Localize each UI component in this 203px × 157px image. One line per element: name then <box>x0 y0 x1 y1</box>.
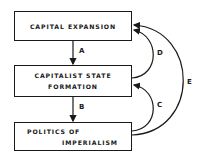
edge-label-d: D <box>157 49 163 57</box>
arrow-d <box>132 30 153 78</box>
node-label: IMPERIALISM <box>27 137 118 148</box>
node-capitalist-state-formation: CAPITALIST STATE FORMATION <box>14 65 132 97</box>
node-capital-expansion: CAPITAL EXPANSION <box>14 11 132 41</box>
node-label: CAPITALIST STATE <box>34 70 111 81</box>
edge-label-c: C <box>157 101 162 109</box>
edge-label-b: B <box>79 103 84 111</box>
arrow-e <box>132 25 183 135</box>
arrow-c <box>132 85 153 131</box>
node-label: POLITICS OF <box>27 126 80 137</box>
edge-label-a: A <box>79 47 84 55</box>
edge-label-e: E <box>187 78 192 86</box>
node-label: CAPITAL EXPANSION <box>30 21 116 32</box>
node-label: FORMATION <box>48 81 98 92</box>
node-politics-of-imperialism: POLITICS OF IMPERIALISM <box>14 122 132 151</box>
